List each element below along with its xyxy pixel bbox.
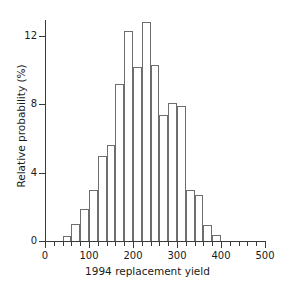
x-axis-major-tick bbox=[45, 242, 46, 248]
x-axis-minor-tick bbox=[115, 242, 116, 246]
histogram-bar bbox=[80, 209, 89, 241]
x-axis-minor-tick bbox=[71, 242, 72, 246]
histogram-bar bbox=[63, 236, 72, 241]
x-axis-minor-tick bbox=[107, 242, 108, 246]
x-axis-minor-tick bbox=[80, 242, 81, 246]
histogram-figure: 04812 0100200300400500 1994 replacement … bbox=[0, 0, 295, 287]
x-axis-minor-tick bbox=[256, 242, 257, 246]
x-axis-major-tick bbox=[221, 242, 222, 248]
histogram-bar bbox=[107, 145, 116, 241]
histogram-bar bbox=[115, 84, 124, 241]
y-axis-title: Relative probability (%) bbox=[15, 51, 27, 201]
x-axis-minor-tick bbox=[195, 242, 196, 246]
x-axis-line bbox=[45, 241, 266, 242]
x-axis-tick-label: 500 bbox=[245, 250, 285, 261]
x-axis-major-tick bbox=[265, 242, 266, 248]
x-axis-title: 1994 replacement yield bbox=[0, 265, 295, 277]
x-axis-tick-label: 100 bbox=[69, 250, 109, 261]
histogram-bar bbox=[203, 225, 212, 241]
x-axis-major-tick bbox=[177, 242, 178, 248]
x-axis-minor-tick bbox=[168, 242, 169, 246]
histogram-bar bbox=[151, 65, 160, 241]
x-axis-minor-tick bbox=[98, 242, 99, 246]
x-axis-minor-tick bbox=[239, 242, 240, 246]
histogram-bar bbox=[168, 103, 177, 241]
x-axis-tick-label: 0 bbox=[25, 250, 65, 261]
x-axis-minor-tick bbox=[159, 242, 160, 246]
x-axis-major-tick bbox=[89, 242, 90, 248]
x-axis-tick-label: 400 bbox=[201, 250, 241, 261]
x-axis-minor-tick bbox=[203, 242, 204, 246]
histogram-bar bbox=[89, 190, 98, 241]
histogram-bar bbox=[186, 190, 195, 241]
histogram-bar bbox=[142, 22, 151, 241]
x-axis-minor-tick bbox=[151, 242, 152, 246]
x-axis-minor-tick bbox=[63, 242, 64, 246]
y-axis-tick-label: 0 bbox=[13, 236, 37, 246]
x-axis-minor-tick bbox=[142, 242, 143, 246]
histogram-bar bbox=[98, 156, 107, 241]
x-axis-minor-tick bbox=[54, 242, 55, 246]
histogram-bar bbox=[159, 115, 168, 241]
histogram-bar bbox=[133, 67, 142, 241]
x-axis-tick-label: 300 bbox=[157, 250, 197, 261]
histogram-bar bbox=[71, 224, 80, 241]
histogram-bar bbox=[124, 31, 133, 241]
x-axis-tick-label: 200 bbox=[113, 250, 153, 261]
histogram-bar bbox=[212, 235, 221, 241]
plot-area bbox=[45, 20, 265, 241]
x-axis-minor-tick bbox=[124, 242, 125, 246]
x-axis-minor-tick bbox=[186, 242, 187, 246]
y-axis-tick-label: 12 bbox=[13, 31, 37, 41]
x-axis-major-tick bbox=[133, 242, 134, 248]
x-axis-minor-tick bbox=[247, 242, 248, 246]
histogram-bar bbox=[177, 106, 186, 241]
histogram-bar bbox=[195, 195, 204, 241]
x-axis-minor-tick bbox=[212, 242, 213, 246]
x-axis-minor-tick bbox=[230, 242, 231, 246]
